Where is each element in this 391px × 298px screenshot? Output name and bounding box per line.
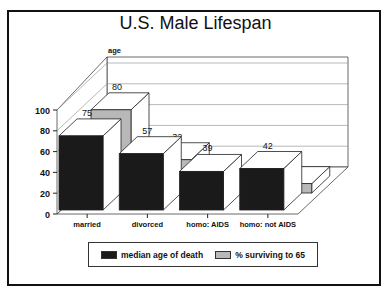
svg-text:75: 75 [82, 108, 92, 118]
svg-text:homo: AIDS: homo: AIDS [186, 220, 229, 229]
svg-text:80: 80 [112, 82, 122, 92]
legend-item-surviving: % surviving to 65 [215, 250, 305, 260]
svg-text:40: 40 [40, 168, 50, 178]
legend-label: median age of death [121, 250, 203, 260]
svg-text:20: 20 [40, 189, 50, 199]
legend: median age of death % surviving to 65 [88, 242, 318, 267]
svg-text:homo: not AIDS: homo: not AIDS [240, 220, 296, 229]
legend-label: % surviving to 65 [235, 250, 305, 260]
svg-text:0: 0 [45, 210, 50, 220]
svg-text:married: married [73, 220, 101, 229]
svg-text:39: 39 [202, 143, 212, 153]
legend-item-median-age: median age of death [101, 250, 203, 260]
svg-text:80: 80 [40, 126, 50, 136]
svg-text:age: age [108, 46, 121, 55]
svg-text:60: 60 [40, 147, 50, 157]
svg-text:57: 57 [142, 126, 152, 136]
legend-swatch-gray [215, 251, 231, 259]
legend-swatch-dark [101, 251, 117, 259]
svg-text:42: 42 [263, 141, 273, 151]
svg-text:100: 100 [35, 106, 50, 116]
svg-text:divorced: divorced [132, 220, 164, 229]
